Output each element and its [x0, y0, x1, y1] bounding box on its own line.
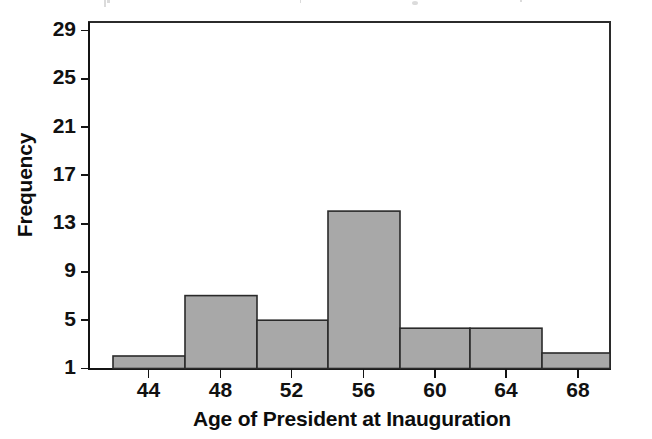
y-tick-label: 1 [64, 355, 76, 378]
histogram-bar [542, 353, 610, 369]
x-tick-label: 60 [423, 378, 446, 401]
y-tick-label: 5 [64, 307, 76, 330]
x-tick-label: 68 [566, 378, 590, 401]
plot-area: 1 5 9 13 17 21 25 29 44 48 52 56 [0, 0, 652, 439]
histogram-bar [400, 328, 470, 368]
x-tick-label: 64 [494, 378, 518, 401]
y-tick-label: 25 [53, 65, 77, 88]
histogram-bar [185, 296, 257, 369]
y-tick-label: 21 [53, 114, 77, 137]
y-tick-label: 9 [64, 258, 76, 281]
x-tick-label: 52 [280, 378, 303, 401]
x-tick-label: 48 [209, 378, 233, 401]
y-axis-title: Frequency [13, 132, 36, 237]
histogram-bar [470, 328, 542, 368]
y-tick-label: 13 [53, 210, 76, 233]
x-tick-label: 44 [137, 378, 161, 401]
x-tick-label: 56 [352, 378, 375, 401]
y-tick-label: 17 [53, 162, 76, 185]
histogram-bar [257, 320, 328, 368]
histogram-bar [113, 356, 185, 369]
histogram-chart: 1 5 9 13 17 21 25 29 44 48 52 56 [0, 0, 652, 439]
y-tick-label: 29 [53, 17, 76, 40]
x-axis-title: Age of President at Inauguration [193, 407, 511, 430]
histogram-bar [328, 211, 400, 368]
